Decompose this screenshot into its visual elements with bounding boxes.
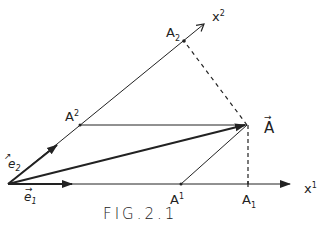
figure-caption: FIG.2.1 <box>103 205 177 223</box>
line-A1-to-A <box>181 125 247 184</box>
x2-index: 2 <box>220 9 225 18</box>
label-A-upper-2: A2 <box>65 110 79 123</box>
x1-axis-label: x1 <box>304 182 317 195</box>
x1-index: 1 <box>312 181 317 190</box>
e2-index: 2 <box>15 164 20 173</box>
label-A-lower-2: A2 <box>166 26 180 43</box>
x2-axis-label: x2 <box>212 10 225 23</box>
A-lower-2-index: 2 <box>175 34 180 43</box>
dashed-A-to-A-lower-2 <box>184 41 247 125</box>
vector-decomposition-diagram: x2 x1 A2 A2 → A A1 A1 ↗ e2 → e1 FIG.2.1 <box>0 0 321 231</box>
A-upper-2-index: 2 <box>74 109 79 118</box>
point-A-lower-2-dot <box>182 39 186 43</box>
A-upper-1-index: 1 <box>179 192 184 201</box>
e1-index: 1 <box>31 197 36 206</box>
A-lower-2-base: A <box>166 25 175 40</box>
x1-base: x <box>304 181 312 196</box>
label-vector-A: A <box>264 121 274 136</box>
label-e2: e2 <box>8 158 20 173</box>
label-e1: e1 <box>24 191 36 206</box>
point-A1-dot <box>180 183 183 186</box>
diagram-canvas <box>0 0 321 231</box>
label-A-lower-1: A1 <box>242 193 256 210</box>
A-lower-1-index: 1 <box>251 201 256 210</box>
A-upper-2-base: A <box>65 109 74 124</box>
x2-base: x <box>212 9 220 24</box>
A-lower-1-base: A <box>242 192 251 207</box>
point-A2-dot <box>79 124 82 127</box>
vector-A-base: A <box>264 119 274 137</box>
